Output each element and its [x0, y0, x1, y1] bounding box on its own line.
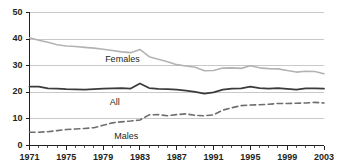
x-tick-label: 1975 — [50, 152, 82, 162]
series-label-females: Females — [103, 54, 142, 64]
series-label-males: Males — [112, 131, 140, 141]
series-label-all: All — [108, 97, 122, 107]
x-tick-label: 1991 — [198, 152, 230, 162]
x-tick-label: 1979 — [87, 152, 119, 162]
series-line-females — [30, 38, 325, 74]
series-line-males — [30, 102, 325, 132]
data-series — [30, 38, 325, 132]
x-tick-label: 1971 — [14, 152, 46, 162]
axis-lines — [30, 13, 325, 146]
x-tick-label: 2003 — [308, 152, 339, 162]
x-tick-label: 1995 — [234, 152, 266, 162]
x-tick-label: 1983 — [124, 152, 156, 162]
y-tick-label: 30 — [3, 60, 23, 70]
y-tick-label: 50 — [3, 7, 23, 17]
x-tick-label: 1987 — [161, 152, 193, 162]
gridlines — [30, 13, 325, 146]
y-tick-label: 40 — [3, 33, 23, 43]
x-tick-label: 1999 — [271, 152, 303, 162]
y-tick-label: 0 — [3, 140, 23, 150]
y-tick-label: 20 — [3, 86, 23, 96]
y-tick-label: 10 — [3, 113, 23, 123]
